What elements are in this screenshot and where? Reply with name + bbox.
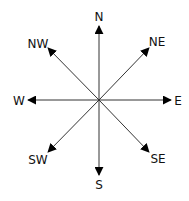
arrow-southwest bbox=[48, 100, 99, 152]
label-northeast: NE bbox=[149, 35, 166, 49]
arrow-southeast bbox=[99, 100, 149, 152]
label-northwest: NW bbox=[28, 37, 49, 51]
arrow-northwest bbox=[48, 48, 99, 100]
label-west: W bbox=[13, 94, 25, 108]
label-east: E bbox=[174, 94, 182, 108]
label-south: S bbox=[95, 178, 103, 192]
label-southwest: SW bbox=[28, 153, 48, 167]
label-southeast: SE bbox=[150, 152, 165, 166]
arrow-northeast bbox=[99, 48, 149, 100]
compass-rose: N NE E SE S SW W NW bbox=[0, 0, 189, 201]
label-north: N bbox=[95, 10, 104, 24]
